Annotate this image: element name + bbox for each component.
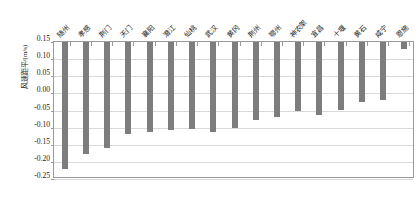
bar	[274, 42, 280, 117]
x-tick-label: 武汉	[202, 22, 219, 39]
bar	[359, 42, 365, 102]
bar	[232, 42, 238, 128]
bar	[401, 42, 407, 49]
y-tick-label: -0.05	[34, 102, 50, 111]
y-tick-label: -0.25	[34, 171, 50, 180]
x-tick-label: 潜江	[160, 22, 177, 39]
y-axis-tick-labels: 0.150.100.050.00-0.05-0.10-0.15-0.20-0.2…	[14, 38, 50, 178]
plot-area	[53, 41, 414, 178]
x-tick-label: 黄冈	[223, 22, 240, 39]
x-tick-label: 孝感	[75, 22, 92, 39]
bar	[316, 42, 322, 115]
x-tick-label: 鄂州	[266, 22, 283, 39]
x-tick-label: 仙桃	[181, 22, 198, 39]
bar	[104, 42, 110, 148]
y-axis-tick-mark	[51, 179, 54, 180]
x-tick-label: 荆门	[96, 22, 113, 39]
y-tick-label: -0.10	[34, 119, 50, 128]
x-tick-label: 襄阳	[138, 22, 155, 39]
bar	[253, 42, 259, 120]
bar	[147, 42, 153, 132]
bar	[62, 42, 68, 169]
bar	[295, 42, 301, 111]
x-tick-label: 天门	[117, 22, 134, 39]
y-tick-label: 0.10	[37, 51, 50, 60]
bar	[189, 42, 195, 129]
y-tick-label: -0.15	[34, 136, 50, 145]
wind-speed-anomaly-bar-chart: 风速距平/(m/s) 0.150.100.050.00-0.05-0.10-0.…	[0, 0, 418, 203]
x-axis-category-labels: 随州孝感荆门天门襄阳潜江仙桃武汉黄冈荆州鄂州神农架宜昌十堰黄石咸宁恩施	[0, 0, 418, 41]
bar-series	[54, 42, 413, 177]
x-tick-label: 随州	[54, 22, 71, 39]
y-tick-label: 0.00	[37, 85, 50, 94]
bar	[125, 42, 131, 134]
gridline	[54, 179, 413, 180]
x-tick-label: 十堰	[330, 22, 347, 39]
bar	[168, 42, 174, 130]
x-tick-label: 荆州	[245, 22, 262, 39]
x-tick-label: 黄石	[351, 22, 368, 39]
bar	[210, 42, 216, 132]
y-tick-label: 0.05	[37, 68, 50, 77]
x-tick-label: 咸宁	[372, 22, 389, 39]
x-tick-label: 恩施	[393, 22, 410, 39]
x-tick-label: 神农架	[287, 17, 309, 39]
x-tick-label: 宜昌	[308, 22, 325, 39]
bar	[380, 42, 386, 100]
bar	[338, 42, 344, 110]
bar	[83, 42, 89, 154]
y-tick-label: -0.20	[34, 153, 50, 162]
